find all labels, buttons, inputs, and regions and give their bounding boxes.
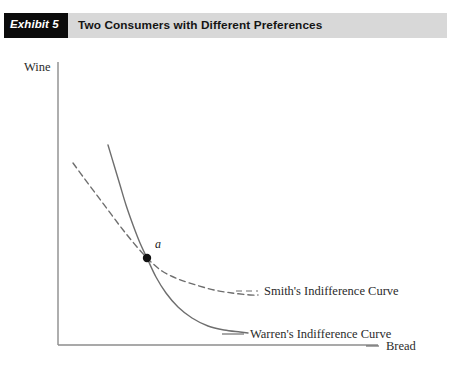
chart-annotations-group: a	[143, 237, 161, 262]
point-a-marker	[143, 254, 151, 262]
exhibit-header: Exhibit 5 Two Consumers with Different P…	[4, 13, 447, 38]
curve-legend-group: Smith's Indifference CurveWarren's Indif…	[222, 284, 399, 341]
indifference-curve-chart: Wine Bread Smith's Indifference CurveWar…	[0, 45, 459, 370]
exhibit-number-label: Exhibit 5	[10, 18, 59, 30]
indifference-curves-group	[73, 145, 258, 333]
chart-canvas: Wine Bread Smith's Indifference CurveWar…	[0, 45, 459, 370]
indifference-curve-warren	[108, 145, 248, 333]
indifference-curve-smith	[73, 163, 258, 295]
legend-label-smith: Smith's Indifference Curve	[264, 284, 399, 298]
chart-axes	[58, 62, 378, 345]
point-a-label: a	[155, 237, 161, 251]
y-axis-label: Wine	[24, 60, 51, 74]
legend-label-warren: Warren's Indifference Curve	[250, 327, 392, 341]
x-axis-label: Bread	[386, 339, 417, 353]
exhibit-title: Two Consumers with Different Preferences	[78, 18, 322, 32]
exhibit-number-badge: Exhibit 5	[4, 13, 68, 38]
